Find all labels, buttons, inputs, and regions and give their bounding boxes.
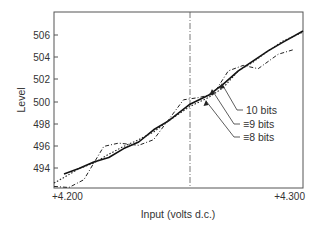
x-tick-max: +4.300: [274, 191, 305, 202]
annotation-10-bits: 10 bits: [246, 104, 277, 116]
x-axis-title: Input (volts d.c.): [141, 208, 216, 220]
y-tick-500: 500: [33, 97, 50, 108]
arrow-heads: [204, 83, 225, 106]
y-tick-498: 498: [33, 119, 50, 130]
y-tick-506: 506: [33, 30, 50, 41]
annotation-9-bits: ≡9 bits: [243, 118, 274, 130]
plot-frame: [54, 12, 303, 188]
y-tick-502: 502: [33, 74, 50, 85]
y-tick-494: 494: [33, 163, 50, 174]
y-tick-496: 496: [33, 141, 50, 152]
y-axis: [54, 35, 58, 168]
line-chart: 506 504 502 500 498 496 494 Level +4.200…: [0, 0, 321, 226]
y-axis-title: Level: [15, 87, 27, 112]
annotation-8-bits: ≡8 bits: [243, 131, 274, 143]
y-tick-504: 504: [33, 52, 50, 63]
x-tick-min: +4.200: [52, 191, 83, 202]
